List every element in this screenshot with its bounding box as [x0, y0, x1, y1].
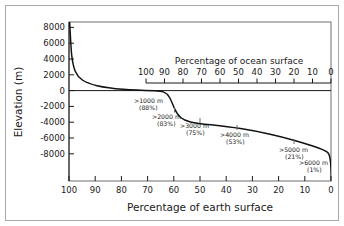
ocean-tick-label: 60: [215, 67, 226, 77]
annotation-value: (83%): [157, 120, 176, 127]
y-axis-title: Elevation (m): [12, 67, 24, 138]
y-tick-label: -8000: [40, 149, 65, 159]
annotation-value: (88%): [139, 104, 158, 111]
x-tick-label: 70: [142, 185, 153, 195]
x-tick-label: 50: [195, 185, 206, 195]
ocean-tick-label: 70: [196, 67, 207, 77]
annotation-value: (53%): [226, 138, 245, 145]
hypsographic-curve-chart: 8000 6000 4000 2000 0 -2000 -4000 -6000 …: [6, 6, 338, 220]
y-tick-label: 6000: [43, 38, 65, 48]
annotation-label: >4000 m: [220, 131, 249, 138]
annotation-label: >6000 m: [299, 159, 328, 166]
x-axis-tick-labels: 100 90 80 70 60 50 40 30 20 10 0: [61, 185, 334, 195]
y-axis-tick-labels: 8000 6000 4000 2000 0 -2000 -4000 -6000 …: [40, 22, 65, 158]
figure-border: 8000 6000 4000 2000 0 -2000 -4000 -6000 …: [5, 5, 339, 221]
x-tick-label: 90: [90, 185, 101, 195]
ocean-tick-label: 50: [233, 67, 244, 77]
x-tick-label: 30: [247, 185, 258, 195]
ocean-tick-label: 10: [307, 67, 318, 77]
ocean-axis-tick-labels: 100 90 80 70 60 50 40 30 20 10 0: [138, 67, 334, 77]
annotation-3000m: >3000 m (75%): [180, 118, 209, 136]
x-tick-label: 100: [61, 185, 77, 195]
y-tick-label: 2000: [43, 70, 65, 80]
x-axis-title: Percentage of earth surface: [127, 201, 273, 213]
annotation-label: >5000 m: [279, 146, 308, 153]
annotation-label: >3000 m: [180, 122, 209, 129]
x-tick-label: 80: [116, 185, 127, 195]
ocean-tick-label: 100: [138, 67, 154, 77]
ocean-tick-label: 90: [159, 67, 170, 77]
figure-page: 8000 6000 4000 2000 0 -2000 -4000 -6000 …: [0, 0, 344, 226]
x-tick-label: 40: [221, 185, 232, 195]
x-tick-label: 0: [328, 185, 333, 195]
annotation-label: >1000 m: [134, 97, 163, 104]
annotation-group: >1000 m (88%) >2000 m (83%) >3000 m (75%…: [134, 97, 328, 173]
x-axis-ticks: [69, 176, 331, 181]
ocean-tick-label: 0: [328, 67, 333, 77]
y-tick-label: -6000: [40, 133, 65, 143]
annotation-value: (1%): [307, 166, 322, 173]
y-tick-label: 4000: [43, 54, 65, 64]
annotation-1000m: >1000 m (88%): [134, 97, 163, 111]
y-tick-label: -4000: [40, 117, 65, 127]
ocean-axis-title: Percentage of ocean surface: [175, 56, 304, 66]
annotation-label: >2000 m: [152, 113, 181, 120]
y-tick-label: -2000: [40, 101, 65, 111]
y-tick-label: 0: [60, 86, 65, 96]
y-tick-label: 8000: [43, 22, 65, 32]
ocean-tick-label: 80: [178, 67, 189, 77]
annotation-5000m: >5000 m (21%): [279, 139, 308, 160]
ocean-tick-label: 20: [289, 67, 300, 77]
ocean-axis-ticks: [146, 79, 331, 84]
x-tick-label: 20: [273, 185, 284, 195]
ocean-tick-label: 30: [270, 67, 281, 77]
annotation-6000m: >6000 m (1%): [299, 159, 328, 173]
x-tick-label: 10: [299, 185, 310, 195]
ocean-tick-label: 40: [252, 67, 263, 77]
x-tick-label: 60: [168, 185, 179, 195]
annotation-value: (75%): [186, 129, 205, 136]
